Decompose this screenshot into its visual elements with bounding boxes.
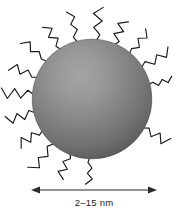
figure-canvas: 2–15 nm: [0, 0, 187, 213]
nanoparticle-figure: 2–15 nm: [0, 0, 187, 213]
nanoparticle-core: [32, 39, 152, 159]
scale-bar-label: 2–15 nm: [75, 197, 114, 208]
